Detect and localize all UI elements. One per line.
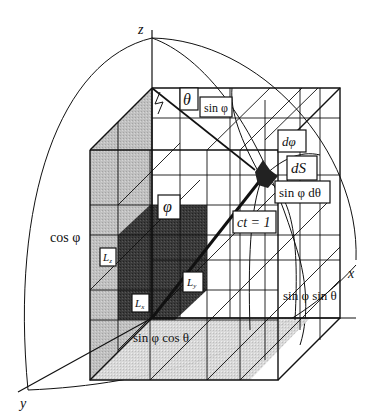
sin-phi-cos-theta-label: sin φ cos θ: [133, 330, 189, 345]
theta-label: θ: [183, 91, 191, 108]
z-axis-label: z: [137, 22, 144, 37]
sin-phi-label: sin φ: [204, 101, 228, 115]
x-axis-label: x: [347, 266, 355, 281]
dS-label: dS: [291, 160, 307, 176]
spherical-lattice-diagram: z x y θ sin φ dφ dS sin φ dθ ct = 1 φ co…: [0, 0, 375, 416]
cos-phi-label: cos φ: [50, 230, 80, 245]
ct-label: ct = 1: [237, 215, 271, 230]
y-axis-label: y: [18, 396, 27, 411]
phi-label: φ: [163, 198, 172, 216]
dphi-label: dφ: [282, 134, 296, 149]
sin-phi-dtheta-label: sin φ dθ: [279, 185, 321, 200]
sin-phi-sin-theta-label: sin φ sin θ: [283, 288, 337, 303]
shaded-faces: [90, 88, 310, 380]
